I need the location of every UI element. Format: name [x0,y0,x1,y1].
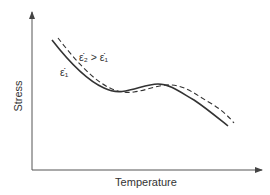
x-axis-label: Temperature [115,176,177,188]
solid-curve-label: ε̇₁ [60,66,69,78]
y-axis-label: Stress [12,80,24,112]
axes [32,12,262,170]
dashed-curve-label: ε̇₂ > ε̇₁ [79,51,108,63]
stress-temperature-diagram: ε̇₂ > ε̇₁ ε̇₁ Stress Temperature [0,0,270,195]
